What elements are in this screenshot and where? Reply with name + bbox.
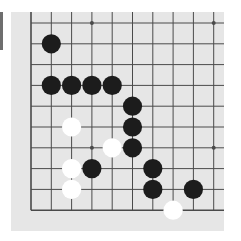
white-stone — [62, 117, 81, 136]
white-stone — [164, 201, 183, 220]
star-point — [90, 21, 94, 25]
black-stone — [143, 180, 162, 199]
star-point — [212, 21, 216, 25]
black-stone — [82, 76, 101, 95]
star-point — [212, 146, 216, 150]
black-stone — [143, 159, 162, 178]
black-stone — [103, 76, 122, 95]
black-stone — [82, 159, 101, 178]
black-stone — [42, 34, 61, 53]
black-stone — [123, 97, 142, 116]
black-stone — [42, 76, 61, 95]
black-stone — [123, 117, 142, 136]
black-stone — [62, 76, 81, 95]
star-point — [90, 146, 94, 150]
board-grid[interactable] — [11, 12, 224, 231]
white-stone — [103, 138, 122, 157]
side-bar — [0, 12, 3, 50]
white-stone — [62, 180, 81, 199]
black-stone — [184, 180, 203, 199]
white-stone — [62, 159, 81, 178]
go-board[interactable] — [11, 12, 224, 231]
black-stone — [123, 138, 142, 157]
